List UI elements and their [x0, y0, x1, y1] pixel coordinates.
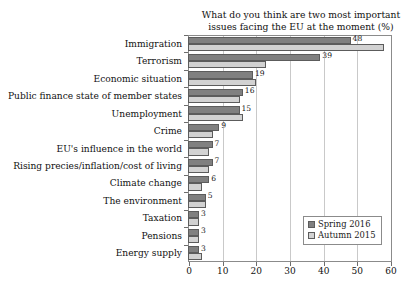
bar-spring-2016 [188, 176, 209, 183]
bar-value-label: 3 [201, 227, 206, 235]
legend-item: Autumn 2015 [308, 230, 376, 241]
bar-group: 19 [188, 70, 392, 87]
bar-autumn-2015 [188, 148, 209, 155]
bar-group: 16 [188, 87, 392, 104]
category-label: Energy supply [116, 248, 182, 258]
bar-autumn-2015 [188, 253, 202, 260]
x-tick-label: 0 [186, 266, 192, 277]
bar-group: 5 [188, 192, 392, 209]
bar-value-label: 48 [353, 35, 363, 43]
bar-autumn-2015 [188, 183, 202, 190]
category-label: Terrorism [137, 56, 182, 66]
category-axis-labels: ImmigrationTerrorismEconomic situationPu… [0, 35, 185, 262]
bar-value-label: 3 [201, 210, 206, 218]
legend-swatch-icon [308, 232, 315, 239]
bar-group: 3 [188, 245, 392, 262]
legend-swatch-icon [308, 221, 315, 228]
bar-value-label: 9 [221, 122, 226, 130]
category-label: The environment [103, 196, 182, 206]
category-label: Crime [154, 126, 182, 136]
bar-autumn-2015 [188, 114, 243, 121]
category-label: Unemployment [112, 109, 182, 119]
category-label: Rising precies/inflation/cost of living [13, 161, 182, 171]
bar-autumn-2015 [188, 61, 266, 68]
x-tick-label: 10 [217, 266, 228, 277]
bar-spring-2016 [188, 194, 206, 201]
category-label: Immigration [125, 39, 182, 49]
x-tick-label: 50 [352, 266, 363, 277]
bar-value-label: 15 [242, 105, 252, 113]
bar-spring-2016 [188, 159, 213, 166]
bar-spring-2016 [188, 141, 213, 148]
category-label: Pensions [141, 231, 182, 241]
x-tick-label: 20 [251, 266, 262, 277]
bar-autumn-2015 [188, 131, 213, 138]
x-tick-label: 60 [385, 266, 396, 277]
category-label: EU's influence in the world [57, 144, 182, 154]
bar-value-label: 5 [208, 192, 213, 200]
bar-spring-2016 [188, 106, 240, 113]
category-label: Taxation [143, 213, 182, 223]
chart-title-line-2: issues facing the EU at the moment (%) [196, 21, 406, 33]
bar-value-label: 19 [255, 70, 265, 78]
x-tick-label: 30 [284, 266, 295, 277]
bar-value-label: 7 [215, 157, 220, 165]
bar-spring-2016 [188, 37, 351, 44]
bar-spring-2016 [188, 71, 253, 78]
bar-value-label: 16 [245, 87, 255, 95]
bar-chart: What do you think are two most important… [0, 0, 415, 287]
bar-spring-2016 [188, 211, 199, 218]
bar-group: 9 [188, 122, 392, 139]
bar-spring-2016 [188, 89, 243, 96]
bar-group: 48 [188, 35, 392, 52]
legend-item: Spring 2016 [308, 219, 376, 230]
category-label: Climate change [110, 178, 182, 188]
bar-autumn-2015 [188, 79, 256, 86]
bar-value-label: 39 [322, 52, 332, 60]
chart-title-line-1: What do you think are two most important [196, 9, 406, 21]
bar-group: 6 [188, 175, 392, 192]
bar-value-label: 7 [215, 140, 220, 148]
category-label: Public finance state of member states [8, 91, 182, 101]
chart-legend: Spring 2016Autumn 2015 [303, 216, 382, 245]
x-tick-label: 40 [318, 266, 329, 277]
bar-autumn-2015 [188, 96, 240, 103]
bar-value-label: 3 [201, 245, 206, 253]
bar-group: 7 [188, 157, 392, 174]
bar-spring-2016 [188, 54, 320, 61]
bar-group: 39 [188, 52, 392, 69]
x-axis-tick-labels: 0102030405060 [188, 266, 392, 280]
bar-group: 7 [188, 140, 392, 157]
category-label: Economic situation [94, 74, 182, 84]
legend-label: Spring 2016 [318, 219, 371, 230]
bar-spring-2016 [188, 124, 219, 131]
bar-autumn-2015 [188, 201, 206, 208]
bar-autumn-2015 [188, 44, 384, 51]
bar-autumn-2015 [188, 236, 199, 243]
bar-group: 15 [188, 105, 392, 122]
bar-spring-2016 [188, 246, 199, 253]
bar-spring-2016 [188, 229, 199, 236]
bar-autumn-2015 [188, 218, 199, 225]
bar-value-label: 6 [211, 175, 216, 183]
chart-title: What do you think are two most important… [196, 9, 406, 32]
bar-autumn-2015 [188, 166, 209, 173]
legend-label: Autumn 2015 [318, 230, 376, 241]
